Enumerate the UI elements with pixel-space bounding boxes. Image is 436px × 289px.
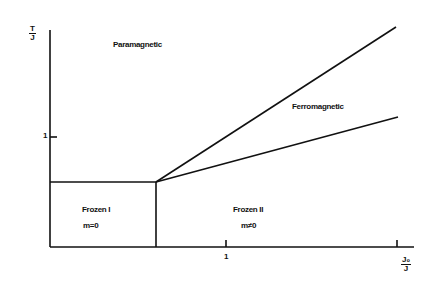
phase-diagram bbox=[0, 0, 436, 289]
y-tick-label-1: 1 bbox=[43, 131, 47, 140]
region-paramagnetic: Paramagnetic bbox=[113, 40, 162, 49]
y-axis-label: T J bbox=[29, 25, 36, 42]
region-frozen1-m: m=0 bbox=[83, 221, 98, 230]
region-frozen2-m: m≠0 bbox=[241, 221, 256, 230]
y-axis-label-denominator: J bbox=[29, 34, 36, 42]
region-ferromagnetic: Ferromagnetic bbox=[292, 102, 344, 111]
x-tick-label-1: 1 bbox=[224, 252, 228, 261]
region-frozen2: Frozen II bbox=[233, 205, 263, 214]
x-axis-label: J₀ J bbox=[401, 256, 411, 273]
para-ferro-boundary bbox=[156, 27, 396, 182]
x-axis-label-denominator: J bbox=[401, 265, 411, 273]
region-frozen1: Frozen I bbox=[82, 205, 110, 214]
ferro-frozen2-boundary bbox=[156, 117, 398, 182]
